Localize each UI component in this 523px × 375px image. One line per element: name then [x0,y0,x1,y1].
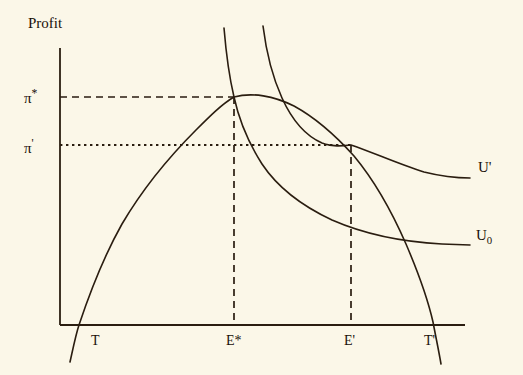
pi-star-base: π [24,90,32,106]
u-zero-subscript: 0 [487,234,492,246]
y-axis-title: Profit [28,16,62,31]
indifference-curve-u-prime [263,26,470,178]
y-tick-label-pi-prime: π' [24,138,34,156]
indifference-curve-u-zero [224,28,470,245]
y-tick-label-pi-star: π* [24,88,37,106]
x-tick-label-t-prime: T' [424,334,435,348]
x-tick-label-t: T [91,334,100,348]
profit-frontier-curve [70,95,441,364]
u-zero-base: U [476,227,487,243]
curve-label-u-zero: U0 [476,228,492,246]
pi-prime-base: π [24,140,32,156]
pi-prime-superscript: ' [32,137,34,150]
curve-label-u-prime: U' [478,160,492,175]
x-tick-label-e-prime: E' [344,334,355,348]
profit-indifference-diagram: Profit π* π' T E* E' T' U' U0 [0,0,523,375]
x-tick-label-e-star: E* [226,334,242,348]
plot-canvas [0,0,523,375]
pi-star-superscript: * [32,87,38,100]
